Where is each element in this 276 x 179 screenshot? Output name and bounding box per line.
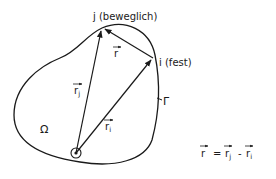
vector-ri-label-sub: i (109, 126, 111, 134)
equation-lhs: r (201, 148, 206, 159)
equation: r = rj - ri (200, 146, 253, 161)
diagram-canvas: j (beweglich) i (fest) Γ Ω r rj ri r = r… (0, 0, 276, 179)
vector-r-arrow (105, 29, 153, 58)
vector-rj-label-sub: j (77, 90, 80, 98)
equation-term2-sub: i (250, 153, 252, 161)
boundary-curve (14, 24, 158, 163)
equation-term2: ri (246, 148, 252, 161)
equation-equals: = (213, 148, 221, 159)
origin-dot (74, 151, 77, 154)
equation-term1-sub: j (228, 153, 231, 161)
boundary-label: Γ (163, 95, 170, 108)
vector-ri-label: ri (105, 121, 111, 134)
region-label: Ω (40, 123, 48, 136)
vector-ri-arrow (76, 60, 151, 153)
equation-minus: - (238, 148, 242, 159)
vector-r-label: r (114, 48, 119, 59)
point-j-label: j (beweglich) (92, 11, 157, 22)
vector-rj-label: rj (74, 85, 80, 98)
equation-term1: rj (225, 148, 231, 161)
point-i-label: i (fest) (159, 57, 192, 68)
